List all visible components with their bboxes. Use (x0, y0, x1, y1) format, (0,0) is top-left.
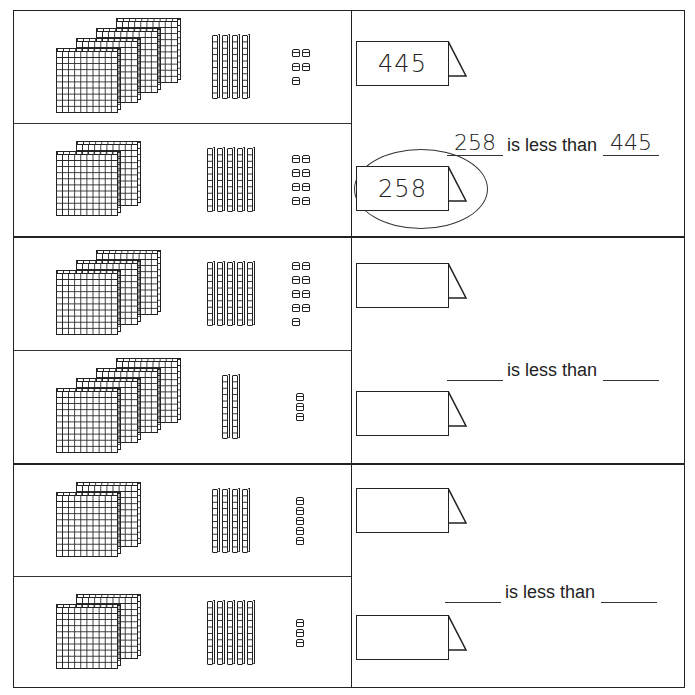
tens-rod-icon (217, 601, 223, 665)
hundreds-flat-icon (56, 273, 118, 335)
number-tag-value[interactable]: 445 (356, 41, 449, 86)
tens-rod-icon (207, 601, 213, 665)
ones-cube-icon (292, 262, 300, 270)
tens-rod-icon (227, 262, 233, 326)
ones-cube-icon (296, 413, 304, 421)
tens-rod-icon (242, 35, 248, 99)
tens-rod-icon (242, 489, 248, 553)
ones-cubes (296, 497, 305, 545)
ones-cube-icon (302, 155, 310, 163)
ones-cube-icon (302, 49, 310, 57)
ones-cube-icon (292, 276, 300, 284)
ones-cube-icon (296, 629, 304, 637)
answer-area-3: is less than (351, 465, 684, 689)
answer-area-2: is less than (351, 238, 684, 463)
answer-area-1: 445 258 258 is less than 445 (351, 11, 684, 236)
base-ten-row (14, 238, 351, 350)
ones-cubes (292, 155, 311, 205)
number-tag-1b[interactable]: 258 (356, 166, 449, 211)
ones-cubes (292, 49, 311, 85)
ones-cube-icon (302, 304, 310, 312)
base-ten-row (14, 577, 351, 689)
ones-cube-icon (296, 497, 304, 505)
ones-cubes (296, 619, 305, 647)
comparison-sentence-2: is less than (447, 356, 659, 381)
tens-rods (222, 375, 238, 439)
ones-cube-icon (296, 517, 304, 525)
tens-rod-icon (232, 375, 238, 439)
tens-rod-icon (217, 262, 223, 326)
comparison-sentence-3: is less than (445, 578, 657, 603)
ones-cube-icon (302, 63, 310, 71)
tent-card-icon (448, 263, 468, 309)
number-tag-value[interactable] (356, 263, 449, 308)
tens-rod-icon (212, 35, 218, 99)
ones-cube-icon (292, 169, 300, 177)
number-tag-value[interactable] (356, 488, 449, 533)
number-tag-2b[interactable] (356, 391, 449, 436)
tens-rod-icon (247, 262, 253, 326)
tens-rod-icon (222, 375, 228, 439)
tens-rod-icon (207, 148, 213, 212)
right-blank[interactable]: 445 (603, 131, 659, 156)
tens-rod-icon (232, 35, 238, 99)
number-tag-1a[interactable]: 445 (356, 41, 449, 86)
number-tag-3a[interactable] (356, 488, 449, 533)
number-tag-value[interactable] (356, 615, 449, 660)
connector-text: is less than (505, 582, 595, 602)
hundreds-flat-icon (56, 495, 118, 557)
ones-cube-icon (296, 619, 304, 627)
ones-cube-icon (292, 290, 300, 298)
tens-rods (212, 35, 248, 99)
ones-cube-icon (292, 183, 300, 191)
tens-rods (212, 489, 248, 553)
tens-rod-icon (237, 148, 243, 212)
ones-cube-icon (292, 318, 300, 326)
ones-cubes (296, 393, 305, 421)
ones-cubes (292, 262, 311, 326)
ones-cube-icon (296, 507, 304, 515)
ones-cube-icon (302, 169, 310, 177)
worksheet: 445 258 258 is less than 445 is less tha… (13, 10, 685, 688)
ones-cube-icon (296, 403, 304, 411)
connector-text: is less than (507, 135, 597, 155)
tent-card-icon (448, 488, 468, 534)
tens-rod-icon (227, 148, 233, 212)
base-ten-row (14, 11, 351, 123)
tens-rod-icon (222, 489, 228, 553)
left-blank[interactable] (447, 356, 503, 381)
ones-cube-icon (302, 197, 310, 205)
left-blank[interactable]: 258 (447, 131, 503, 156)
ones-cube-icon (302, 262, 310, 270)
hundreds-flat-icon (56, 154, 118, 216)
tent-card-icon (448, 615, 468, 661)
ones-cube-icon (302, 276, 310, 284)
tens-rod-icon (247, 601, 253, 665)
tent-card-icon (448, 391, 468, 437)
right-blank[interactable] (601, 578, 657, 603)
tens-rods (207, 262, 253, 326)
left-blank[interactable] (445, 578, 501, 603)
tent-card-icon (448, 41, 468, 87)
ones-cube-icon (292, 155, 300, 163)
comparison-sentence-1: 258 is less than 445 (447, 131, 659, 156)
ones-cube-icon (292, 197, 300, 205)
ones-cube-icon (302, 290, 310, 298)
number-tag-2a[interactable] (356, 263, 449, 308)
ones-cube-icon (296, 537, 304, 545)
ones-cube-icon (292, 49, 300, 57)
tens-rod-icon (237, 262, 243, 326)
number-tag-3b[interactable] (356, 615, 449, 660)
tens-rod-icon (237, 601, 243, 665)
ones-cube-icon (292, 63, 300, 71)
hundreds-flat-icon (56, 391, 118, 453)
number-tag-value[interactable] (356, 391, 449, 436)
tens-rod-icon (212, 489, 218, 553)
number-tag-value[interactable]: 258 (356, 166, 449, 211)
tens-rod-icon (247, 148, 253, 212)
tent-card-icon (448, 166, 468, 212)
ones-cube-icon (292, 77, 300, 85)
ones-cube-icon (292, 304, 300, 312)
tens-rods (207, 601, 253, 665)
right-blank[interactable] (603, 356, 659, 381)
